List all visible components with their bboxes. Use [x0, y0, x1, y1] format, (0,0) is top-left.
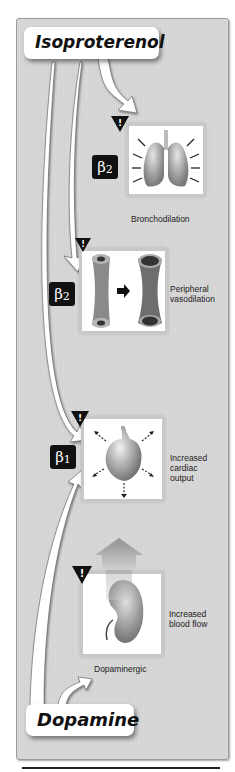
- beta2-receptor-badge: β2: [49, 282, 75, 306]
- bottom-rule: [22, 767, 220, 769]
- isoproterenol-label-box: Isoproterenol: [24, 27, 159, 59]
- svg-text:!: !: [81, 240, 85, 249]
- svg-text:!: !: [118, 118, 122, 128]
- bronchodilation-label: Bronchodilation: [131, 214, 190, 224]
- receptor-symbol: β: [97, 158, 106, 176]
- dopamine-label-box: Dopamine: [26, 704, 134, 736]
- receptor-subscript: 1: [64, 453, 71, 466]
- label-line: Increased: [170, 453, 207, 463]
- label-line: Increased: [169, 609, 207, 619]
- increased-cardiac-output-label: Increased cardiac output: [170, 453, 207, 483]
- svg-text:!: !: [80, 568, 85, 579]
- vessels-effect-box: [79, 248, 168, 334]
- arrow-dopa-to-kidney: [58, 677, 92, 705]
- dopamine-label: Dopamine: [37, 709, 139, 730]
- blood-vessel-icon: [82, 251, 165, 331]
- isoproterenol-label: Isoproterenol: [35, 32, 165, 52]
- receptor-subscript: 2: [106, 163, 113, 176]
- label-line: vasodilation: [170, 294, 215, 304]
- label-line: Peripheral: [170, 284, 215, 294]
- receptor-subscript: 2: [63, 290, 70, 303]
- kidney-effect-box: [80, 571, 164, 657]
- increased-blood-flow-label: Increased blood flow: [169, 609, 207, 629]
- label-line: cardiac: [170, 463, 207, 473]
- beta2-receptor-badge: β2: [92, 155, 118, 179]
- beta1-receptor-badge: β1: [50, 445, 76, 469]
- heart-effect-box: [81, 416, 165, 502]
- lungs-icon: [129, 126, 203, 194]
- label-line: blood flow: [169, 619, 207, 629]
- receptor-symbol: β: [55, 448, 64, 466]
- arrow-dopa-to-heart: [30, 470, 82, 705]
- arrow-iso-to-lungs: [98, 58, 137, 113]
- receptor-symbol: β: [54, 285, 63, 303]
- peripheral-vasodilation-label: Peripheral vasodilation: [170, 284, 215, 304]
- svg-text:!: !: [78, 413, 82, 423]
- kidney-icon: [83, 574, 161, 654]
- dopaminergic-receptor-label: Dopaminergic: [94, 664, 146, 674]
- label-line: output: [170, 473, 207, 483]
- lungs-effect-box: [126, 123, 206, 197]
- heart-icon: [84, 419, 162, 499]
